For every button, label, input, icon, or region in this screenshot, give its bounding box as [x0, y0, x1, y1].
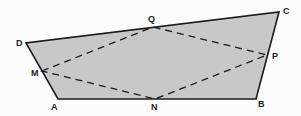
diagram-canvas: A B C D M N P Q	[0, 0, 301, 116]
label-p: P	[272, 52, 278, 61]
quadrilateral-abcd	[26, 12, 279, 99]
label-d: D	[16, 39, 23, 48]
label-q: Q	[148, 15, 155, 24]
label-b: B	[258, 100, 265, 109]
label-a: A	[51, 103, 58, 112]
label-n: N	[151, 103, 158, 112]
label-m: M	[31, 69, 39, 78]
label-c: C	[283, 7, 290, 16]
